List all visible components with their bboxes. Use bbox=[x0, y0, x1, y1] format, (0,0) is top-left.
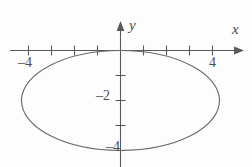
x-tick-label-4: 4 bbox=[209, 56, 216, 70]
y-axis-arrowhead bbox=[117, 21, 125, 31]
y-axis-label: y bbox=[129, 18, 136, 33]
y-tick-label--4: –4 bbox=[106, 140, 120, 154]
x-tick-label--4: –4 bbox=[18, 56, 32, 70]
y-tick-label--2: –2 bbox=[96, 89, 110, 103]
figure-canvas: x y –4 4 –2 –4 bbox=[0, 0, 252, 167]
plot-svg bbox=[0, 0, 252, 167]
x-axis-arrowhead bbox=[234, 47, 244, 55]
x-axis-label: x bbox=[232, 22, 239, 37]
